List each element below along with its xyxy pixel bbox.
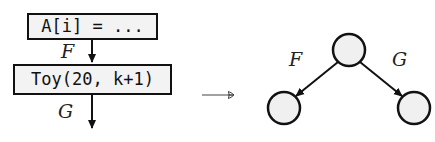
graph-edge-f: [296, 62, 338, 96]
graph-edge-label-g: G: [392, 48, 407, 70]
graph-edge-label-f: F: [289, 48, 302, 70]
statement-box-call: Toy(20, k+1): [13, 64, 172, 95]
graph-node-root: [333, 34, 365, 66]
graph-node-left: [268, 92, 300, 124]
statement-box-assign: A[i] = ...: [27, 13, 158, 40]
graph-node-right: [398, 92, 430, 124]
edge-label-f: F: [61, 40, 74, 62]
edge-label-g: G: [58, 100, 73, 122]
